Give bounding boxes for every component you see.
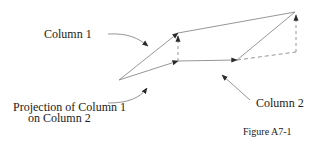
column2-baseline [178, 60, 237, 61]
column1-callout-arrow [108, 34, 148, 46]
projection-vector [119, 61, 178, 80]
projection-label-line2: on Column 2 [28, 112, 91, 124]
figure-caption: Figure A7-1 [243, 127, 292, 137]
column2-callout-arrow [222, 75, 250, 100]
column1-vector [119, 33, 178, 80]
top-edge [178, 12, 295, 33]
diagonal-edge [237, 12, 295, 60]
column1-label: Column 1 [44, 28, 92, 40]
column2-label: Column 2 [256, 97, 304, 109]
